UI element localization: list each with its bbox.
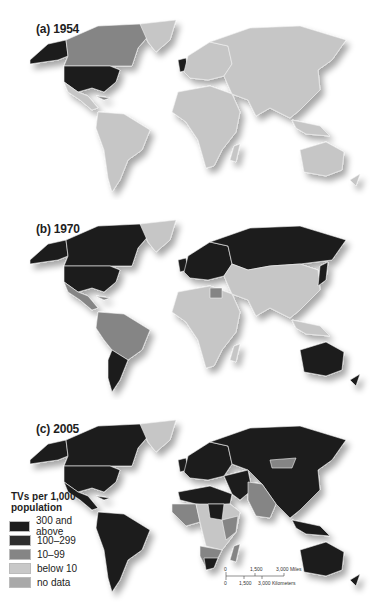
region-south-america bbox=[96, 112, 150, 192]
legend: TVs per 1,000 population 300 and above 1… bbox=[9, 491, 99, 590]
swatch-300-above bbox=[9, 521, 30, 532]
region-se-asia bbox=[292, 520, 330, 536]
swatch-no-data bbox=[9, 577, 31, 588]
scale-bar: 0 1,500 3,000 Miles 0 1,500 3,000 Kilome… bbox=[224, 566, 294, 590]
region-south-america bbox=[96, 312, 150, 360]
region-madagascar bbox=[230, 544, 240, 562]
region-new-zealand bbox=[350, 174, 360, 186]
region-australia bbox=[300, 142, 344, 176]
map-panel-1970: (b) 1970 bbox=[0, 200, 378, 400]
region-greenland bbox=[140, 420, 176, 452]
scale-km-1500: 1,500 bbox=[239, 580, 252, 586]
swatch-10-99 bbox=[9, 549, 31, 560]
region-alaska bbox=[30, 40, 68, 64]
region-cuba bbox=[96, 96, 110, 100]
swatch-below-10 bbox=[9, 563, 31, 574]
legend-title: TVs per 1,000 population bbox=[11, 491, 99, 513]
legend-item-no-data: no data bbox=[9, 576, 99, 590]
region-greenland bbox=[140, 20, 176, 52]
region-sudan bbox=[208, 504, 224, 520]
scale-miles-0: 0 bbox=[224, 566, 227, 572]
scale-miles-3000: 3,000 Miles bbox=[276, 566, 302, 572]
legend-item-10-99: 10–99 bbox=[9, 547, 99, 561]
region-africa bbox=[172, 286, 240, 368]
region-madagascar bbox=[230, 344, 240, 362]
scale-km-0: 0 bbox=[224, 580, 227, 586]
region-madagascar bbox=[230, 144, 240, 162]
legend-label: 300 and above bbox=[36, 515, 99, 537]
region-alaska bbox=[30, 440, 68, 464]
legend-item-below-10: below 10 bbox=[9, 562, 99, 576]
region-egypt bbox=[210, 288, 222, 298]
region-west-africa bbox=[172, 504, 200, 526]
legend-label: 10–99 bbox=[37, 549, 65, 560]
legend-title-line1: TVs per 1,000 bbox=[11, 491, 99, 502]
region-cuba bbox=[96, 296, 110, 300]
scale-miles-1500: 1,500 bbox=[250, 566, 263, 572]
region-north-africa bbox=[178, 486, 232, 506]
region-greenland bbox=[140, 220, 176, 252]
region-south-africa bbox=[204, 558, 218, 570]
legend-label: below 10 bbox=[37, 563, 77, 574]
region-europe bbox=[184, 442, 232, 480]
region-south-america bbox=[96, 512, 150, 592]
region-australia bbox=[300, 542, 344, 576]
region-alaska bbox=[30, 240, 68, 264]
panel-label-2005: (c) 2005 bbox=[36, 422, 79, 436]
region-australia bbox=[300, 342, 344, 376]
legend-item-300-above: 300 and above bbox=[9, 519, 99, 533]
region-new-zealand bbox=[350, 574, 360, 586]
region-se-asia bbox=[292, 120, 330, 136]
region-japan bbox=[318, 262, 328, 286]
legend-label: 100–299 bbox=[37, 535, 76, 546]
legend-title-line2: population bbox=[11, 502, 99, 513]
legend-label: no data bbox=[37, 577, 70, 588]
region-mongolia bbox=[270, 458, 296, 468]
panel-label-1954: (a) 1954 bbox=[36, 22, 79, 36]
panel-label-1970: (b) 1970 bbox=[36, 222, 80, 236]
map-panel-1954: (a) 1954 bbox=[0, 0, 378, 200]
swatch-100-299 bbox=[9, 535, 31, 546]
region-new-zealand bbox=[350, 374, 360, 386]
region-se-asia bbox=[292, 320, 330, 336]
region-africa bbox=[172, 86, 240, 168]
scale-km-3000: 3,000 Kilometers bbox=[258, 580, 296, 586]
